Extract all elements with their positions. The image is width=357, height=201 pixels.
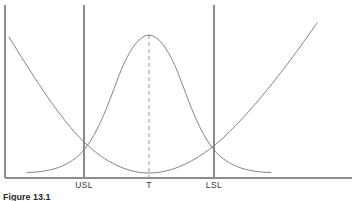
normal-distribution-curve [27, 35, 271, 173]
taguchi-loss-figure: USL T LSL Figure 13.1 [0, 0, 357, 201]
lsl-label: LSL [206, 180, 222, 190]
target-label: T [146, 180, 152, 190]
loss-function-chart [0, 0, 357, 201]
usl-label: USL [75, 180, 93, 190]
figure-caption: Figure 13.1 [3, 192, 51, 201]
